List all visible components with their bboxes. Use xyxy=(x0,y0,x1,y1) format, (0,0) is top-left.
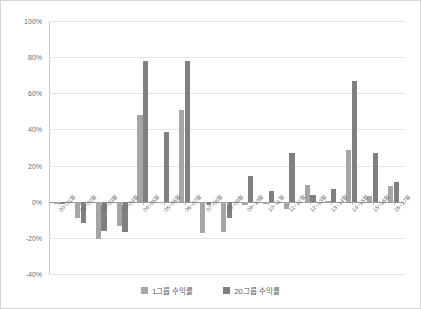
bar xyxy=(200,202,205,234)
bar xyxy=(269,191,274,202)
bar xyxy=(325,201,330,202)
bar xyxy=(185,61,190,202)
x-axis-tick-mark xyxy=(59,202,60,205)
bar xyxy=(117,202,122,226)
bar xyxy=(101,202,106,231)
bar xyxy=(158,202,163,203)
x-axis-tick-mark xyxy=(268,202,269,205)
y-axis-tick-label: 100% xyxy=(1,18,42,25)
bar xyxy=(179,110,184,201)
bar xyxy=(164,132,169,202)
bar-group xyxy=(112,21,133,274)
bar xyxy=(242,202,247,206)
chart-container: 100%80%60%40%20%0%-20%-40% 00~01월01~02월0… xyxy=(0,0,421,309)
bar-group xyxy=(153,21,174,274)
bar xyxy=(310,195,315,202)
bar-group xyxy=(362,21,383,274)
bar xyxy=(367,196,372,201)
x-axis-tick-mark xyxy=(394,202,395,205)
x-axis-tick-mark xyxy=(122,202,123,205)
y-axis-tick-label: -20% xyxy=(1,234,42,241)
bar xyxy=(81,202,86,223)
bar-group xyxy=(91,21,112,274)
bar xyxy=(96,202,101,239)
x-axis-tick-mark xyxy=(331,202,332,205)
legend-item[interactable]: 1그룹 수익률 xyxy=(141,285,193,296)
bar-group xyxy=(383,21,404,274)
bar-group xyxy=(258,21,279,274)
y-axis-tick-label: 20% xyxy=(1,162,42,169)
bar xyxy=(54,202,59,204)
x-axis-tick-mark xyxy=(206,202,207,205)
bar xyxy=(346,150,351,202)
legend-label: 20그룹 수익률 xyxy=(234,285,279,296)
y-axis-tick-label: 0% xyxy=(1,198,42,205)
bar xyxy=(206,202,211,206)
bar xyxy=(388,186,393,201)
bar xyxy=(227,202,232,218)
bar-group xyxy=(237,21,258,274)
bar xyxy=(373,153,378,202)
bar xyxy=(248,176,253,202)
bar xyxy=(394,182,399,202)
x-axis-tick-mark xyxy=(164,202,165,205)
bar xyxy=(143,61,148,202)
bar xyxy=(221,202,226,232)
y-axis-labels: 100%80%60%40%20%0%-20%-40% xyxy=(1,21,45,274)
bar-group xyxy=(195,21,216,274)
bar xyxy=(263,202,268,204)
x-axis-tick-mark xyxy=(373,202,374,205)
bar-group xyxy=(49,21,70,274)
x-axis-tick-mark xyxy=(247,202,248,205)
bar xyxy=(289,153,294,202)
bar-group xyxy=(70,21,91,274)
gridline xyxy=(49,274,404,275)
bar xyxy=(284,202,289,209)
bar-group xyxy=(320,21,341,274)
bar xyxy=(122,202,127,232)
bar xyxy=(352,81,357,202)
x-axis-tick-mark xyxy=(80,202,81,205)
bar-group xyxy=(300,21,321,274)
legend-swatch-icon xyxy=(141,287,148,294)
x-axis-tick-mark xyxy=(352,202,353,205)
bar-group xyxy=(216,21,237,274)
bar xyxy=(305,185,310,201)
bar xyxy=(60,202,65,204)
bars-layer xyxy=(49,21,404,274)
bar-group xyxy=(279,21,300,274)
y-axis-tick-label: 80% xyxy=(1,54,42,61)
bar-group xyxy=(341,21,362,274)
x-axis-tick-mark xyxy=(185,202,186,205)
bar xyxy=(75,202,80,218)
chart-legend: 1그룹 수익률20그룹 수익률 xyxy=(1,285,420,296)
x-axis-tick-mark xyxy=(310,202,311,205)
bar xyxy=(137,115,142,202)
bar xyxy=(331,189,336,202)
legend-label: 1그룹 수익률 xyxy=(152,285,193,296)
x-axis-tick-mark xyxy=(227,202,228,205)
y-axis-tick-label: 60% xyxy=(1,90,42,97)
legend-item[interactable]: 20그룹 수익률 xyxy=(223,285,279,296)
x-axis-tick-mark xyxy=(143,202,144,205)
legend-swatch-icon xyxy=(223,287,230,294)
x-axis-tick-mark xyxy=(101,202,102,205)
bar-group xyxy=(174,21,195,274)
y-axis-tick-label: 40% xyxy=(1,126,42,133)
y-axis-tick-label: -40% xyxy=(1,271,42,278)
x-axis-tick-mark xyxy=(289,202,290,205)
bar-group xyxy=(133,21,154,274)
plot-area xyxy=(49,21,404,274)
